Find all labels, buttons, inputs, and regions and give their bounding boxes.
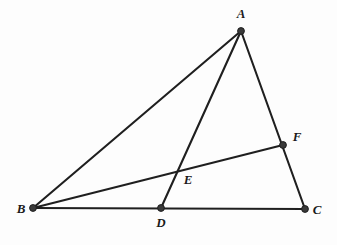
segment-AD	[161, 31, 241, 208]
vertex-label-f: F	[292, 129, 302, 144]
vertex-point-f	[280, 142, 287, 149]
vertex-label-a: A	[236, 6, 246, 21]
segment-AC	[241, 31, 305, 209]
geometry-diagram: ABCDEF	[0, 0, 337, 245]
vertex-point-d	[158, 205, 165, 212]
vertex-label-e: E	[183, 172, 193, 187]
vertex-label-b: B	[16, 201, 26, 216]
vertex-point-c	[302, 206, 309, 213]
label-layer: ABCDEF	[16, 6, 322, 230]
point-layer	[30, 28, 309, 213]
segment-BC	[33, 208, 305, 209]
vertex-label-d: D	[155, 215, 166, 230]
geometry-canvas: ABCDEF	[0, 0, 337, 245]
segment-layer	[33, 31, 305, 209]
vertex-label-c: C	[313, 202, 322, 217]
vertex-point-b	[30, 205, 37, 212]
vertex-point-a	[238, 28, 245, 35]
